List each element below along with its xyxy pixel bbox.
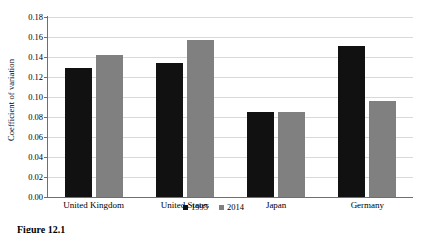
y-axis-tick-label: 0.04 — [15, 153, 43, 162]
bar-united-kingdom-2014 — [96, 55, 123, 197]
legend-swatch-icon — [183, 205, 188, 210]
legend-label: 2014 — [227, 203, 244, 212]
gridline — [48, 37, 413, 38]
bar-japan-2014 — [278, 112, 305, 197]
y-axis-tick-label: 0.12 — [15, 73, 43, 82]
y-axis-tick-labels: 0.000.020.040.060.080.100.120.140.160.18 — [18, 0, 46, 233]
chart-figure: Coefficient of variation 0.000.020.040.0… — [0, 0, 427, 233]
y-axis-tick-label: 0.16 — [15, 33, 43, 42]
plot-area — [48, 17, 413, 197]
gridline — [48, 17, 413, 18]
y-axis-tick-label: 0.10 — [15, 93, 43, 102]
y-axis-tick-mark — [44, 177, 48, 178]
y-axis-tick-label: 0.02 — [15, 173, 43, 182]
legend-swatch-icon — [219, 205, 224, 210]
legend-label: 1995 — [191, 203, 208, 212]
bar-united-kingdom-1995 — [65, 68, 92, 197]
bar-germany-2014 — [369, 101, 396, 197]
bar-united-states-1995 — [156, 63, 183, 197]
y-axis-tick-mark — [44, 157, 48, 158]
y-axis-line — [47, 16, 48, 198]
y-axis-tick-mark — [44, 97, 48, 98]
y-axis-tick-mark — [44, 57, 48, 58]
bar-united-states-2014 — [187, 40, 214, 197]
y-axis-tick-mark — [44, 137, 48, 138]
y-axis-tick-label: 0.14 — [15, 53, 43, 62]
chart-legend: 19952014 — [0, 203, 427, 212]
y-axis-tick-mark — [44, 117, 48, 118]
legend-entry-2014: 2014 — [219, 203, 244, 212]
legend-entry-1995: 1995 — [183, 203, 208, 212]
figure-caption: Figure 12.1 — [17, 224, 65, 233]
x-axis-line — [47, 197, 413, 198]
y-axis-tick-label: 0.18 — [15, 13, 43, 22]
y-axis-tick-mark — [44, 37, 48, 38]
y-axis-tick-label: 0.06 — [15, 133, 43, 142]
y-axis-tick-label: 0.00 — [15, 193, 43, 202]
bar-germany-1995 — [338, 46, 365, 197]
y-axis-tick-mark — [44, 17, 48, 18]
y-axis-tick-mark — [44, 197, 48, 198]
bar-japan-1995 — [247, 112, 274, 197]
y-axis-tick-label: 0.08 — [15, 113, 43, 122]
y-axis-tick-mark — [44, 77, 48, 78]
